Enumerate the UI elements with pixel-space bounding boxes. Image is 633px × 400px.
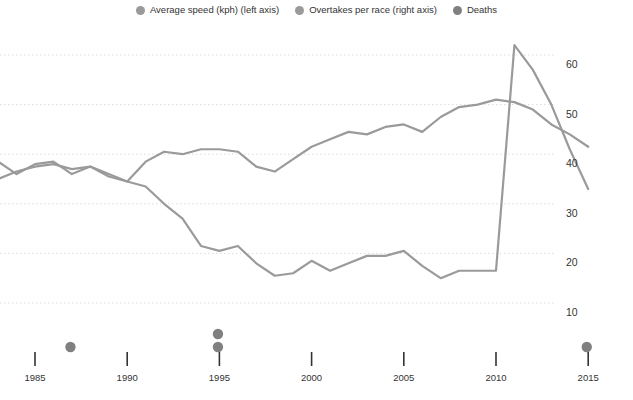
series-average-speed-line (0, 100, 588, 182)
legend-label-deaths: Deaths (467, 5, 497, 15)
deaths-marker-dot[interactable] (582, 342, 592, 352)
y-axis-tick-label: 60 (566, 59, 578, 70)
x-axis-tick-label: 1995 (209, 373, 230, 383)
legend-label-overtakes: Overtakes per race (right axis) (309, 5, 437, 15)
formula-one-chart: Average speed (kph) (left axis) Overtake… (0, 0, 633, 400)
gridlines (0, 55, 556, 303)
deaths-marker-dot[interactable] (65, 342, 75, 352)
legend-item-deaths[interactable]: Deaths (453, 5, 497, 15)
y-axis-tick-label: 20 (566, 257, 578, 268)
legend-dot-icon (295, 6, 304, 15)
chart-legend: Average speed (kph) (left axis) Overtake… (0, 0, 633, 20)
y-axis-tick-label: 30 (566, 208, 578, 219)
legend-dot-icon (453, 6, 462, 15)
legend-item-overtakes[interactable]: Overtakes per race (right axis) (295, 5, 437, 15)
series-overtakes-line (0, 45, 588, 278)
y-axis-tick-label: 10 (566, 307, 578, 318)
legend-dot-icon (136, 6, 145, 15)
deaths-marker-dot[interactable] (213, 342, 223, 352)
legend-item-average-speed[interactable]: Average speed (kph) (left axis) (136, 5, 279, 15)
x-axis-tick-label: 2000 (301, 373, 322, 383)
y-axis-tick-label: 40 (566, 158, 578, 169)
x-axis-ticks (35, 352, 588, 366)
legend-label-average-speed: Average speed (kph) (left axis) (150, 5, 279, 15)
x-axis-tick-label: 2010 (485, 373, 506, 383)
deaths-marker-dot[interactable] (213, 329, 223, 339)
series-deaths-markers (65, 329, 592, 352)
chart-svg (0, 20, 633, 400)
x-axis-tick-label: 2005 (393, 373, 414, 383)
y-axis-tick-label: 50 (566, 109, 578, 120)
x-axis-tick-label: 1985 (24, 373, 45, 383)
plot-area: 102030405060 198519901995200020052010201… (0, 20, 633, 400)
x-axis-tick-label: 1990 (117, 373, 138, 383)
x-axis-tick-label: 2015 (578, 373, 599, 383)
